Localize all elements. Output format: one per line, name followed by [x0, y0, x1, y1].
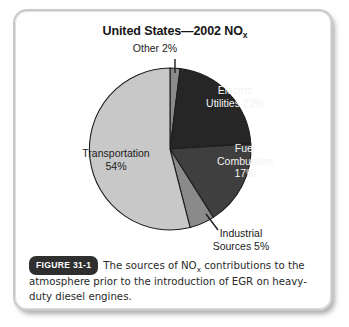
pie-chart: Other 2% Electric Utilities 22% Fuel Com… [15, 11, 335, 251]
pie-label-transportation: Transportation 54% [64, 147, 168, 172]
caption-subscript: x [197, 265, 201, 274]
pie-label-electric-utilities: Electric Utilities 22% [192, 84, 278, 109]
pie-label-fuel-line2: Combustion [207, 155, 283, 168]
caption-text-part1: The sources of NO [103, 260, 196, 271]
pie-label-industrial-line2: Sources 5% [193, 240, 289, 253]
pie-label-other-text: Other 2% [133, 42, 177, 54]
pie-label-fuel-line1: Fuel [207, 142, 283, 155]
figure-frame: United States—2002 NOx [13, 9, 333, 311]
pie-label-electric-line2: Utilities 22% [192, 97, 278, 110]
pie-label-industrial-sources: Industrial Sources 5% [193, 227, 289, 252]
pie-label-transport-line1: Transportation [64, 147, 168, 160]
pie-label-fuel-line3: 17% [207, 167, 283, 180]
pie-label-fuel-combustion: Fuel Combustion 17% [207, 142, 283, 180]
figure-caption: FIGURE 31-1The sources of NOx contributi… [29, 256, 321, 304]
figure-container: United States—2002 NOx [0, 0, 349, 327]
figure-number-badge: FIGURE 31-1 [29, 256, 98, 275]
pie-label-transport-line2: 54% [64, 160, 168, 173]
pie-label-other: Other 2% [112, 42, 198, 55]
pie-label-industrial-line1: Industrial [193, 227, 289, 240]
pie-label-electric-line1: Electric [192, 84, 278, 97]
